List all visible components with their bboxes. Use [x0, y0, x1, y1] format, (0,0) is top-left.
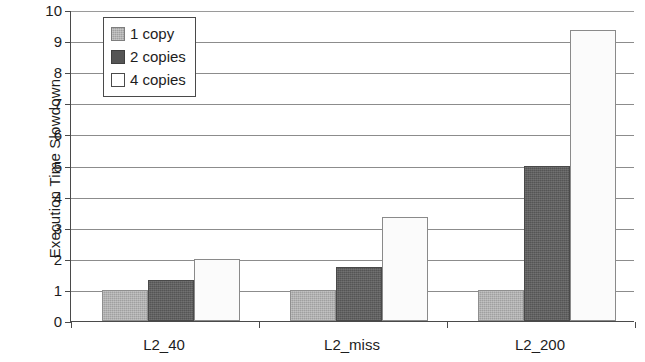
bar-L2_miss-4-copies	[382, 217, 428, 321]
bar-L2_40-2-copies	[148, 280, 194, 321]
legend-item-2-copies: 2 copies	[111, 45, 186, 68]
y-axis-tick-label: 7	[2, 96, 62, 111]
y-axis-tick-label: 9	[2, 34, 62, 49]
legend-swatch-icon-2-copies	[111, 50, 125, 64]
y-axis-tick-mark	[65, 104, 71, 105]
y-axis-tick-mark	[65, 167, 71, 168]
legend-swatch-icon-4-copies	[111, 73, 125, 87]
y-axis-tick-label: 5	[2, 159, 62, 174]
y-axis-tick-label: 0	[2, 314, 62, 329]
y-axis-tick-label: 4	[2, 190, 62, 205]
y-axis-tick-mark	[65, 73, 71, 74]
x-axis-tick-label-L2_miss: L2_miss	[272, 336, 432, 353]
y-axis-tick-label: 1	[2, 283, 62, 298]
bar-L2_200-1-copy	[478, 290, 524, 321]
bar-L2_miss-2-copies	[336, 267, 382, 321]
gridline	[71, 104, 634, 105]
x-axis-tick-mark	[447, 322, 448, 328]
legend-swatch-icon-1-copy	[111, 27, 125, 41]
x-axis-tick-label-L2_200: L2_200	[460, 336, 620, 353]
y-axis-tick-mark	[65, 11, 71, 12]
y-axis-tick-label: 6	[2, 127, 62, 142]
bar-L2_40-4-copies	[194, 259, 240, 321]
y-axis-tick-mark	[65, 135, 71, 136]
y-axis-tick-mark	[65, 198, 71, 199]
y-axis-tick-mark	[65, 260, 71, 261]
x-axis-tick-label-L2_40: L2_40	[84, 336, 244, 353]
y-axis-tick-mark	[65, 291, 71, 292]
bar-L2_200-2-copies	[524, 166, 570, 322]
y-axis-tick-mark	[65, 42, 71, 43]
bar-chart: Execution Time Slowdown 012345678910L2_4…	[0, 0, 645, 362]
x-axis-tick-mark	[71, 322, 72, 328]
legend-item-1-copy: 1 copy	[111, 22, 186, 45]
gridline	[71, 135, 634, 136]
y-axis-tick-label: 2	[2, 252, 62, 267]
bar-L2_40-1-copy	[102, 290, 148, 321]
y-axis-tick-mark	[65, 229, 71, 230]
y-axis-tick-label: 3	[2, 221, 62, 236]
legend-label-1-copy: 1 copy	[130, 26, 174, 41]
x-axis-tick-mark	[635, 322, 636, 328]
gridline	[71, 11, 634, 12]
bar-L2_200-4-copies	[570, 30, 616, 321]
chart-legend: 1 copy 2 copies 4 copies	[103, 17, 196, 97]
y-axis-tick-label: 10	[2, 3, 62, 18]
legend-label-2-copies: 2 copies	[130, 49, 186, 64]
legend-label-4-copies: 4 copies	[130, 72, 186, 87]
y-axis-tick-label: 8	[2, 65, 62, 80]
legend-item-4-copies: 4 copies	[111, 68, 186, 91]
bar-L2_miss-1-copy	[290, 290, 336, 321]
x-axis-tick-mark	[259, 322, 260, 328]
